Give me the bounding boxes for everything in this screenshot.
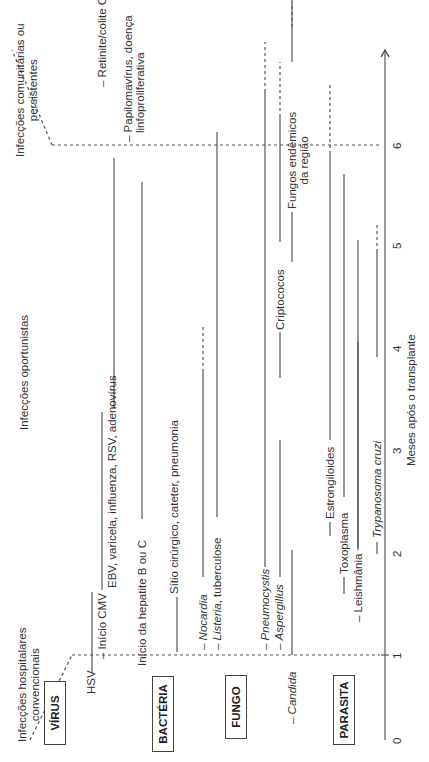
label-listeria-text: Listeria [211, 603, 223, 640]
tick-label-0: 0 [391, 738, 404, 744]
category-parasite: PARASITA [333, 675, 355, 745]
phase-label-late-line1: Infecções comunitárias ou [14, 23, 27, 157]
tick-label-1: 1 [391, 653, 404, 659]
label-pneumocystis-text: Pneumocystis [259, 569, 271, 641]
label-hsv: HSV [85, 670, 98, 694]
x-axis-label: Meses após o transplante [405, 334, 418, 466]
label-pneumocystis: – Pneumocystis [259, 569, 272, 650]
label-nocardia-text: Nocardia [197, 594, 209, 640]
label-cryptococcus: Criptococos [274, 269, 287, 330]
label-ebv: EBV, varicela, influenza, RSV, adenovíru… [106, 375, 119, 588]
dash: – [286, 714, 298, 724]
category-bacteria: BACTÉRIA [152, 676, 174, 752]
label-hepatitis: Início da hepatite B ou C [136, 540, 149, 666]
phase-label-early-line2: convencionais [29, 628, 42, 742]
dash: – [197, 640, 209, 650]
phase-label-early-line1: Infecções hospitalares [16, 628, 29, 742]
label-papillomavirus-line1: – Papilomavírus, doença [122, 15, 134, 142]
label-tuberculosis-text: , tuberculose [211, 537, 223, 603]
label-papillomavirus-line2: linfoproliferativa [134, 15, 146, 142]
label-candida: – Candida [286, 672, 299, 724]
label-retinitis: – Retinite/colite CMV [96, 0, 109, 87]
label-candida-text: Candida [286, 672, 298, 715]
tick-label-2: 2 [391, 551, 404, 557]
phase-label-early: Infecções hospitalares convencionais [16, 628, 42, 742]
label-strongyloides: Estrongiloides [324, 447, 337, 519]
label-surgical-site: Sítio cirúrgico, cateter, pneumonia [168, 420, 181, 594]
label-endemic-fungi: Fungos endêmicos da região [286, 112, 310, 209]
tick-label-4: 4 [391, 346, 404, 352]
label-cmv-onset: – Início CMV [96, 593, 109, 659]
dash: – [259, 640, 271, 650]
phase-label-late: Infecções comunitárias ou persistentes [14, 23, 40, 157]
label-papillomavirus: – Papilomavírus, doença linfoproliferati… [122, 15, 146, 142]
tick-label-3: 3 [391, 448, 404, 454]
label-aspergillus: – Aspergillus [273, 584, 286, 650]
category-fungus: FUNGO [225, 675, 247, 739]
dash: – [211, 640, 223, 650]
label-nocardia: – Nocardia [197, 594, 210, 650]
diagram-stage: Infecções hospitalares convencionais Inf… [0, 0, 429, 762]
label-toxoplasma: Toxoplasma [338, 513, 351, 574]
phase-label-mid: Infecções oportunistas [18, 315, 31, 430]
label-aspergillus-text: Aspergillus [273, 584, 285, 640]
category-virus: VÍRUS [44, 681, 66, 745]
label-endemic-line1: Fungos endêmicos [286, 112, 298, 209]
label-listeria: – Listeria, tuberculose [211, 537, 224, 650]
label-trypanosoma: Trypanosoma cruzi [371, 441, 384, 538]
tick-label-5: 5 [391, 243, 404, 249]
dash: – [273, 640, 285, 650]
tick-label-6: 6 [391, 143, 404, 149]
label-leishmania: – Leishmânia [352, 554, 365, 622]
label-endemic-line2: da região [298, 112, 310, 209]
phase-label-late-line2: persistentes [27, 23, 40, 157]
